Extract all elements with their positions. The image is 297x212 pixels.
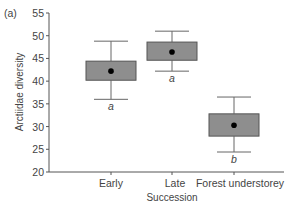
mean-dot xyxy=(108,68,114,74)
y-tick-label: 25 xyxy=(32,143,44,155)
box-late: a xyxy=(147,31,197,84)
y-tick-label: 30 xyxy=(32,121,44,133)
y-tick-label: 20 xyxy=(32,166,44,178)
significance-letter: b xyxy=(231,153,237,165)
x-axis-title: Succession xyxy=(146,192,197,203)
x-axis: EarlyLateForest understorey xyxy=(49,172,285,189)
y-axis: 2025303540455055 xyxy=(32,7,49,178)
y-tick-label: 55 xyxy=(32,7,44,19)
y-tick-label: 50 xyxy=(32,30,44,42)
y-axis-title: Arctiidae diversity xyxy=(14,53,25,131)
x-category-label: Forest understorey xyxy=(196,177,285,189)
y-tick-label: 40 xyxy=(32,75,44,87)
panel-label: (a) xyxy=(4,7,17,19)
box-forest-understorey: b xyxy=(209,97,259,165)
box-plot-chart: (a) 2025303540455055 EarlyLateForest und… xyxy=(0,0,297,212)
boxes: aab xyxy=(86,31,259,165)
significance-letter: a xyxy=(169,72,175,84)
box-early: a xyxy=(86,41,136,112)
mean-dot xyxy=(169,49,175,55)
significance-letter: a xyxy=(108,100,114,112)
x-category-label: Late xyxy=(165,177,186,189)
x-category-label: Early xyxy=(99,177,124,189)
y-tick-label: 45 xyxy=(32,52,44,64)
mean-dot xyxy=(231,122,237,128)
y-tick-label: 35 xyxy=(32,98,44,110)
